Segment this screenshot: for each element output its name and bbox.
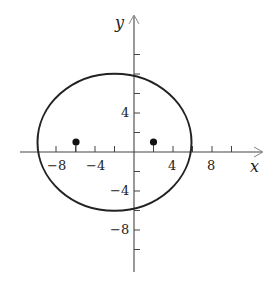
coordinate-plane: −8 −4 4 8 4 −4 −8 x y	[0, 0, 279, 284]
y-axis-label: y	[114, 13, 125, 32]
y-tick-label-neg4: −4	[110, 183, 129, 198]
focus-left-point	[72, 138, 79, 145]
x-ticks	[56, 146, 232, 152]
y-tick-label-4: 4	[121, 105, 129, 120]
ellipse-graph: −8 −4 4 8 4 −4 −8 x y	[0, 0, 279, 284]
x-tick-label-neg8: −8	[47, 158, 66, 173]
x-axis-label: x	[250, 157, 259, 176]
x-tick-label-8: 8	[207, 158, 215, 173]
y-tick-label-neg8: −8	[110, 222, 129, 237]
x-tick-label-neg4: −4	[86, 158, 105, 173]
focus-right-point	[150, 138, 157, 145]
x-tick-label-4: 4	[168, 158, 176, 173]
